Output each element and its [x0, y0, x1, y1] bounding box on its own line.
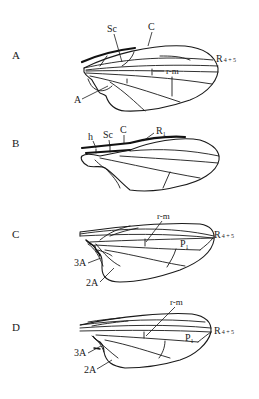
vein-r45-c — [90, 238, 214, 242]
vein-r45-d — [80, 330, 211, 332]
panel-letter-c: C — [12, 228, 19, 240]
vein-r23-d — [80, 325, 211, 328]
leader-rm-d — [146, 307, 175, 336]
vein-sc-c — [100, 226, 130, 240]
label-r45-a: R4 + 5 — [216, 53, 236, 64]
crossvein-mcu-b — [163, 172, 170, 188]
vein-cu-c — [105, 250, 185, 266]
vein-r23-b — [130, 150, 219, 156]
panel-c: C r-m R4 + 5 P1 3A 2A — [12, 211, 234, 288]
panel-b: B h Sc C R1 — [12, 124, 219, 191]
label-c-a: C — [148, 21, 155, 32]
wing-c-drawing — [80, 223, 214, 282]
label-r1-b: R1 — [156, 125, 166, 137]
label-rm-d: r-m — [170, 297, 183, 307]
vein-a1-a — [110, 82, 145, 111]
panel-letter-b: B — [12, 137, 19, 149]
leader-sc-a — [114, 34, 122, 62]
leader-c-a — [148, 32, 152, 46]
wing-venation-figure: A Sc C R4 + 5 — [0, 0, 259, 399]
label-sc-a: Sc — [107, 23, 118, 34]
vein-m-a — [86, 73, 212, 84]
wing-b-drawing — [81, 137, 219, 191]
label-3a-d: 3A — [74, 347, 87, 358]
label-3a-c: 3A — [74, 257, 87, 268]
leader-a-a — [82, 86, 108, 99]
leader-3a-c — [88, 258, 101, 263]
vein-r45-b — [120, 156, 218, 163]
wing-outline-a — [84, 46, 218, 111]
vein-m-b — [100, 158, 200, 178]
panel-letter-d: D — [12, 321, 20, 333]
wing-a-drawing — [82, 46, 218, 111]
label-2a-d: 2A — [84, 364, 97, 375]
label-sc-b: Sc — [103, 129, 114, 140]
label-r45-c: R4 + 5 — [214, 229, 234, 240]
label-rm-c: r-m — [157, 211, 170, 221]
leader-2a-d — [97, 360, 112, 369]
panel-a: A Sc C R4 + 5 — [12, 21, 236, 111]
vein-r23-c — [80, 234, 213, 238]
vein-cu-a — [90, 76, 180, 102]
vein-sc-end-a — [122, 52, 134, 66]
costa-thick-a — [82, 48, 135, 62]
panel-d: D r-m R4 + 5 P1 3A 2A — [12, 297, 234, 375]
label-c-b: C — [120, 124, 127, 135]
label-r45-d: R4 + 5 — [214, 325, 234, 336]
costa-thick-b — [82, 143, 130, 148]
vein-cu-b — [105, 168, 120, 188]
label-p1-d: P1 — [185, 332, 194, 344]
anal-hook-a — [88, 79, 112, 91]
label-h-b: h — [88, 131, 93, 142]
label-a-a: A — [74, 94, 82, 105]
label-p1-c: P1 — [180, 238, 189, 250]
label-rm-a: r-m — [166, 66, 179, 76]
panel-letter-a: A — [12, 49, 20, 61]
label-2a-c: 2A — [86, 277, 99, 288]
